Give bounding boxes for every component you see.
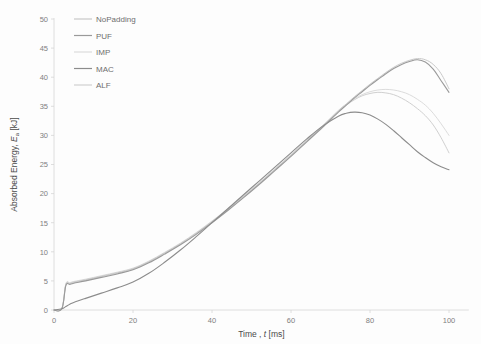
x-tick-label: 80 (366, 316, 374, 325)
y-tick-label: 30 (40, 131, 48, 140)
x-axis-title: Time , t [ms] (238, 329, 284, 339)
y-tick-label: 45 (40, 44, 48, 53)
series-line-alf (54, 92, 449, 310)
y-axis-ticks: 05101520253035404550 (40, 15, 54, 315)
x-tick-label: 40 (208, 316, 216, 325)
axis-titles: Time , t [ms]Absorbed Energy, Ea [kJ] (9, 117, 285, 339)
legend-label-alf: ALF (96, 81, 111, 90)
chart-figure: 05101520253035404550 020406080100 NoPadd… (0, 0, 481, 344)
y-tick-label: 50 (40, 15, 48, 24)
y-tick-label: 5 (44, 277, 48, 286)
y-tick-label: 40 (40, 73, 48, 82)
x-axis-ticks: 020406080100 (52, 310, 455, 325)
y-tick-label: 35 (40, 102, 48, 111)
legend-label-nopadding: NoPadding (96, 15, 136, 24)
line-chart: 05101520253035404550 020406080100 NoPadd… (0, 0, 481, 344)
chart-legend: NoPaddingPUFIMPMACALF (74, 15, 136, 90)
legend-label-puf: PUF (96, 32, 112, 41)
data-series-group (54, 59, 449, 312)
y-axis-title: Absorbed Energy, Ea [kJ] (9, 117, 20, 211)
legend-label-imp: IMP (96, 48, 110, 57)
y-tick-label: 25 (40, 160, 48, 169)
y-tick-label: 20 (40, 189, 48, 198)
y-tick-label: 10 (40, 248, 48, 257)
y-tick-label: 0 (44, 306, 48, 315)
x-tick-label: 20 (129, 316, 137, 325)
x-tick-label: 100 (443, 316, 456, 325)
legend-label-mac: MAC (96, 65, 114, 74)
x-tick-label: 60 (287, 316, 295, 325)
y-tick-label: 15 (40, 219, 48, 228)
x-tick-label: 0 (52, 316, 56, 325)
series-line-mac (54, 112, 449, 310)
series-line-imp (54, 89, 449, 310)
